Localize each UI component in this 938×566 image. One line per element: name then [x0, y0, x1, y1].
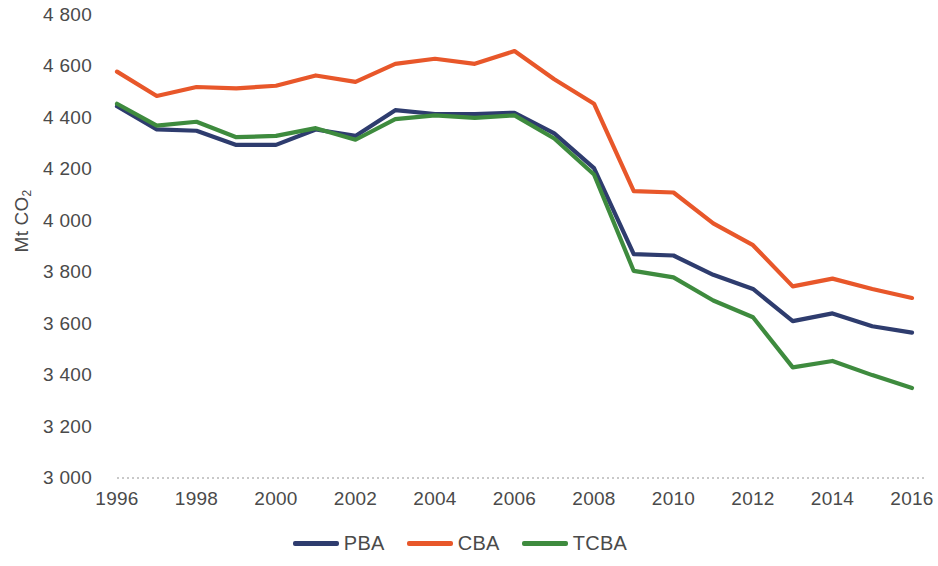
chart-legend: PBACBATCBA: [0, 532, 920, 555]
x-axis-tick-2014: 2014: [798, 488, 868, 510]
legend-item-tcba[interactable]: TCBA: [522, 532, 628, 555]
legend-label-cba: CBA: [458, 532, 500, 555]
y-axis-tick-4000: 4 000: [0, 210, 92, 232]
legend-label-tcba: TCBA: [573, 532, 628, 555]
x-axis-tick-2008: 2008: [559, 488, 629, 510]
legend-swatch-pba-icon: [293, 541, 339, 546]
y-axis-tick-3800: 3 800: [0, 261, 92, 283]
legend-swatch-cba-icon: [407, 541, 453, 546]
y-axis-tick-labels: 4 8004 6004 4004 2004 0003 8003 6003 400…: [0, 0, 92, 500]
x-axis-tick-2010: 2010: [639, 488, 709, 510]
x-axis-tick-labels: 1996199820002002200420062008201020122014…: [0, 488, 920, 518]
y-axis-tick-3600: 3 600: [0, 313, 92, 335]
x-axis-tick-2004: 2004: [400, 488, 470, 510]
x-axis-tick-2016: 2016: [877, 488, 938, 510]
x-axis-tick-2002: 2002: [321, 488, 391, 510]
legend-item-cba[interactable]: CBA: [407, 532, 500, 555]
x-axis-tick-2006: 2006: [480, 488, 550, 510]
y-axis-tick-3200: 3 200: [0, 416, 92, 438]
y-axis-tick-4800: 4 800: [0, 4, 92, 26]
series-line-pba: [117, 106, 912, 332]
y-axis-tick-3000: 3 000: [0, 467, 92, 489]
y-axis-tick-4200: 4 200: [0, 158, 92, 180]
y-axis-tick-3400: 3 400: [0, 364, 92, 386]
x-axis-tick-2000: 2000: [241, 488, 311, 510]
plot-area: [100, 0, 912, 490]
legend-item-pba[interactable]: PBA: [293, 532, 385, 555]
legend-swatch-tcba-icon: [522, 541, 568, 546]
legend-label-pba: PBA: [344, 532, 385, 555]
y-axis-tick-4600: 4 600: [0, 55, 92, 77]
x-axis-tick-1996: 1996: [82, 488, 152, 510]
x-axis-tick-2012: 2012: [718, 488, 788, 510]
series-line-cba: [117, 51, 912, 298]
x-axis-tick-1998: 1998: [162, 488, 232, 510]
y-axis-tick-4400: 4 400: [0, 107, 92, 129]
series-lines: [100, 0, 912, 490]
